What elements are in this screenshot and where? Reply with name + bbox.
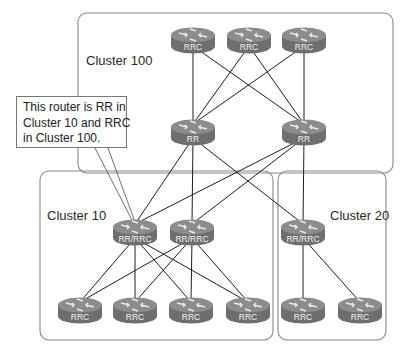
- bgp-route-reflector-diagram: RRCRRCRRCRRRRRR/RRCRR/RRCRR/RRCRRCRRCRRC…: [0, 0, 402, 353]
- router-icon: RRC: [171, 28, 215, 54]
- link: [191, 238, 192, 302]
- link: [249, 46, 304, 124]
- router-label: RR: [187, 134, 199, 144]
- router-label: RRC: [294, 312, 312, 322]
- callout-note: This router is RR in Cluster 10 and RRC …: [16, 96, 127, 148]
- router-label: RRC: [126, 312, 144, 322]
- link: [193, 46, 249, 124]
- router-icon: RRC: [227, 28, 271, 54]
- router-label: RR/RRC: [175, 234, 208, 244]
- router-icon: RRC: [282, 28, 326, 54]
- router-icon: RR: [171, 120, 215, 146]
- router-icon: RRC: [169, 298, 213, 324]
- router-label: RRC: [182, 312, 200, 322]
- router-label: RR/RRC: [286, 234, 319, 244]
- router-label: RR: [298, 134, 310, 144]
- link: [80, 238, 135, 302]
- router-label: RRC: [71, 312, 89, 322]
- router-icon: RR/RRC: [170, 220, 214, 246]
- router-icon: RRC: [281, 298, 325, 324]
- link: [80, 238, 192, 302]
- link: [135, 138, 304, 224]
- links: [80, 46, 360, 302]
- link: [135, 138, 193, 224]
- link: [303, 138, 304, 224]
- router-icon: RRC: [226, 298, 270, 324]
- router-label: RRC: [351, 312, 369, 322]
- router-label: RRC: [239, 312, 257, 322]
- link: [192, 238, 248, 302]
- cluster-20-label: Cluster 20: [330, 208, 389, 223]
- routers: RRCRRCRRCRRRRRR/RRCRR/RRCRR/RRCRRCRRCRRC…: [58, 28, 382, 324]
- router-icon: RRC: [113, 298, 157, 324]
- router-icon: RR/RRC: [281, 220, 325, 246]
- callout-line-3: in Cluster 100.: [23, 131, 126, 147]
- link: [192, 138, 193, 224]
- cluster-10-label: Cluster 10: [47, 208, 106, 223]
- router-icon: RR/RRC: [113, 220, 157, 246]
- cluster-100-label: Cluster 100: [86, 53, 152, 68]
- callout-line-1: This router is RR in: [23, 100, 126, 116]
- router-icon: RRC: [58, 298, 102, 324]
- router-label: RRC: [184, 42, 202, 52]
- router-icon: RRC: [338, 298, 382, 324]
- router-icon: RR: [282, 120, 326, 146]
- router-label: RRC: [240, 42, 258, 52]
- callout-line-2: Cluster 10 and RRC: [23, 116, 126, 132]
- link: [303, 238, 360, 302]
- router-label: RR/RRC: [118, 234, 151, 244]
- router-label: RRC: [295, 42, 313, 52]
